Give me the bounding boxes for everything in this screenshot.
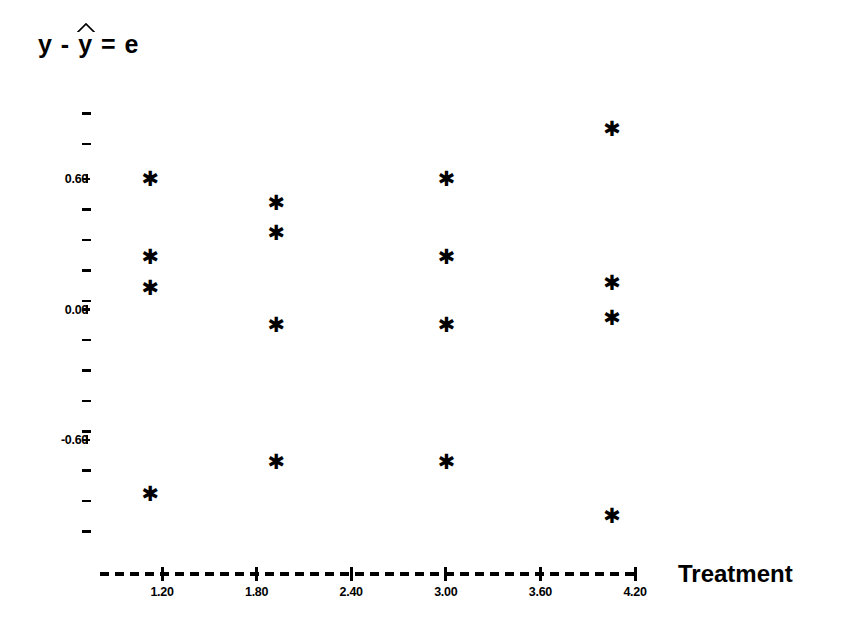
- y-tick-minor: [82, 530, 91, 533]
- data-point: ✱: [141, 249, 157, 265]
- data-point: ✱: [268, 454, 284, 470]
- data-point: ✱: [603, 508, 619, 524]
- x-tick-label: 3.60: [505, 586, 575, 599]
- data-point: ✱: [268, 317, 284, 333]
- y-tick-minor: [82, 208, 91, 211]
- plot-area: 0.600.00-0.60 1.201.802.403.003.604.20 ✱…: [0, 0, 857, 630]
- y-tick-minor: [82, 400, 91, 403]
- x-tick-label: 1.20: [127, 586, 197, 599]
- y-axis: 0.600.00-0.60: [0, 0, 110, 630]
- x-axis-line: [100, 572, 637, 576]
- data-point: ✱: [438, 171, 454, 187]
- y-tick-minor: [82, 430, 91, 433]
- data-point: ✱: [268, 225, 284, 241]
- x-tick: [634, 567, 637, 581]
- data-point: ✱: [438, 249, 454, 265]
- y-tick-minor: [82, 239, 91, 242]
- y-tick-minor: [82, 112, 91, 115]
- x-tick-label: 2.40: [316, 586, 386, 599]
- residual-scatter-plot: y - y = e 0.600.00-0.60 1.201.802.403.00…: [0, 0, 857, 630]
- x-tick: [444, 567, 447, 581]
- data-point: ✱: [603, 121, 619, 137]
- y-tick-minor: [82, 369, 91, 372]
- x-tick-label: 4.20: [600, 586, 670, 599]
- data-point: ✱: [438, 454, 454, 470]
- data-point: ✱: [603, 310, 619, 326]
- x-tick: [161, 567, 164, 581]
- x-tick: [350, 567, 353, 581]
- data-point: ✱: [603, 275, 619, 291]
- x-tick-label: 3.00: [411, 586, 481, 599]
- y-tick-minor: [82, 143, 91, 146]
- y-tick-minor: [82, 300, 91, 303]
- x-tick: [539, 567, 542, 581]
- y-tick-label: 0.60: [28, 173, 88, 186]
- y-tick-minor: [82, 339, 91, 342]
- data-point: ✱: [141, 486, 157, 502]
- x-tick: [255, 567, 258, 581]
- x-tick-label: 1.80: [222, 586, 292, 599]
- data-point: ✱: [141, 171, 157, 187]
- data-point: ✱: [268, 195, 284, 211]
- y-tick-minor: [82, 469, 91, 472]
- y-tick-label: -0.60: [28, 434, 88, 447]
- data-point: ✱: [141, 280, 157, 296]
- y-tick-label: 0.00: [28, 304, 88, 317]
- x-axis-title: Treatment: [678, 562, 793, 586]
- y-tick-minor: [82, 269, 91, 272]
- y-tick-minor: [82, 500, 91, 503]
- data-point: ✱: [438, 317, 454, 333]
